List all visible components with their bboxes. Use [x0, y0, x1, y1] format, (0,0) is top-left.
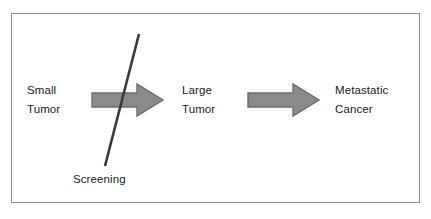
stage-label-metastatic-cancer-line2: Cancer	[335, 100, 388, 119]
stage-label-small-tumor: Small Tumor	[27, 81, 60, 119]
stage-label-large-tumor-line2: Tumor	[182, 100, 215, 119]
arrow-small-to-large-icon	[90, 82, 166, 118]
diagram-canvas: Small Tumor Large Tumor Metastatic Cance…	[0, 0, 431, 219]
screening-label: Screening	[73, 170, 126, 189]
stage-label-small-tumor-line2: Tumor	[27, 100, 60, 119]
stage-label-small-tumor-line1: Small	[27, 81, 60, 100]
stage-label-large-tumor-line1: Large	[182, 81, 215, 100]
stage-label-metastatic-cancer: Metastatic Cancer	[335, 81, 388, 119]
stage-label-large-tumor: Large Tumor	[182, 81, 215, 119]
stage-label-metastatic-cancer-line1: Metastatic	[335, 81, 388, 100]
arrow-large-to-metastatic-icon	[246, 82, 322, 118]
arrow-shape	[92, 84, 163, 116]
arrow-shape	[248, 84, 319, 116]
